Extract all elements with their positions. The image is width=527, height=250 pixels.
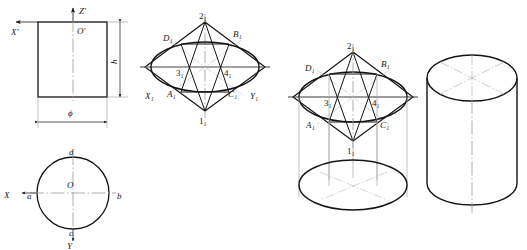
iso-line-2-to-A <box>181 22 205 92</box>
diameter-dimension-label: ϕ <box>68 108 73 118</box>
iso-center-3-label: 3₁ <box>176 68 184 78</box>
x-axis-label: X' <box>10 27 19 37</box>
iso2-point-C-label: C₁ <box>380 120 389 130</box>
iso-line-2-to-C <box>205 22 229 92</box>
iso2-center-4-label: 4₁ <box>372 98 380 108</box>
front-view-group: Z' X' O' h ϕ <box>10 6 128 128</box>
iso2-line-2-to-C <box>353 52 377 122</box>
iso2-line-2-to-A <box>329 52 353 122</box>
result-cylinder-group <box>427 55 517 213</box>
iso-vertex-2-label: 2₁ <box>199 11 207 21</box>
top-view-y-label: Y <box>67 241 73 250</box>
point-d-label: d <box>69 147 74 157</box>
top-view-x-label: X <box>3 190 10 200</box>
iso-point-A-label: A₁ <box>166 89 176 99</box>
iso-point-D-label: D₁ <box>162 33 173 43</box>
iso-point-B-label: B₁ <box>233 29 242 39</box>
iso-ellipse-construction-group: 2₁ 1₁ D₁ B₁ A₁ C₁ 3₁ 4₁ X₁ Y₁ <box>140 11 270 126</box>
top-view-center-label: O <box>67 180 74 190</box>
iso2-point-B-label: B₁ <box>381 59 390 69</box>
front-view-outline <box>38 22 107 97</box>
iso-y-axis-label: Y₁ <box>250 91 258 101</box>
iso2-vertex-1-label: 1₁ <box>347 146 355 156</box>
iso2-point-D-label: D₁ <box>304 63 315 73</box>
top-view-group: X Y a b c d O <box>3 147 122 250</box>
iso-vertex-1-label: 1₁ <box>199 116 207 126</box>
iso2-line-1-to-D <box>329 74 353 141</box>
point-b-label: b <box>117 191 122 201</box>
z-axis-label: Z' <box>79 6 87 16</box>
origin-label: O' <box>77 26 86 36</box>
iso-line-1-to-D <box>181 44 205 111</box>
point-c-label: c <box>69 228 73 238</box>
iso2-vertex-2-label: 2₁ <box>347 41 355 51</box>
iso2-point-A-label: A₁ <box>305 120 315 130</box>
engineering-drawing-svg: Z' X' O' h ϕ X Y a b c d O <box>0 0 527 250</box>
point-a-label: a <box>27 191 32 201</box>
height-dimension-label: h <box>109 59 119 64</box>
iso-x-axis-label: X₁ <box>144 91 154 101</box>
iso-center-4-label: 4₁ <box>224 68 232 78</box>
iso-cylinder-construction-group: 2₁ 1₁ D₁ B₁ A₁ C₁ 3₁ 4₁ <box>288 41 418 210</box>
iso-point-C-label: C₁ <box>228 89 237 99</box>
drawing-canvas: Z' X' O' h ϕ X Y a b c d O <box>0 0 527 250</box>
iso2-center-3-label: 3₁ <box>324 98 332 108</box>
